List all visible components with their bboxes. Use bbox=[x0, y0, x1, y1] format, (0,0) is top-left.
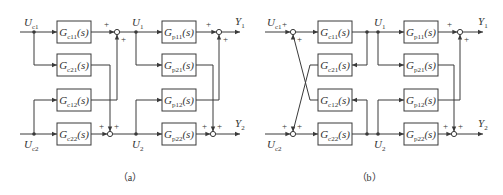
signal-line bbox=[352, 100, 367, 134]
arrowhead bbox=[446, 132, 451, 136]
summing-junction bbox=[210, 131, 215, 136]
arrowhead bbox=[452, 30, 457, 34]
arrowhead bbox=[157, 63, 162, 67]
arrowhead bbox=[313, 30, 318, 34]
arrowhead bbox=[399, 98, 404, 102]
plus-sign: + bbox=[217, 121, 222, 131]
output-label-y2: Y2 bbox=[235, 117, 245, 132]
summing-junction bbox=[290, 29, 295, 34]
plus-sign: + bbox=[443, 121, 448, 131]
plus-sign: + bbox=[297, 34, 302, 44]
arrowhead bbox=[313, 132, 318, 136]
intermediate-label-u1: U1 bbox=[374, 16, 386, 31]
block-gc12: Gc12(s) bbox=[57, 89, 91, 111]
arrowhead bbox=[291, 126, 295, 131]
summing-junction bbox=[107, 131, 112, 136]
signal-line bbox=[352, 32, 367, 65]
block-gp21: Gp21(s) bbox=[162, 54, 196, 76]
block-gc21: Gc21(s) bbox=[57, 54, 91, 76]
arrowhead bbox=[211, 30, 216, 34]
input-label-uc2: Uc2 bbox=[24, 138, 39, 153]
arrowhead bbox=[211, 126, 215, 131]
plus-sign: + bbox=[104, 19, 109, 29]
signal-line bbox=[136, 100, 162, 134]
arrowhead bbox=[478, 30, 483, 34]
arrowhead bbox=[399, 132, 404, 136]
block-gc22: Gc22(s) bbox=[57, 123, 91, 145]
block-gp22: Gp22(s) bbox=[162, 123, 196, 145]
block-gc22: Gc22(s) bbox=[318, 123, 352, 145]
summing-junction bbox=[216, 29, 221, 34]
plus-sign: + bbox=[282, 121, 287, 131]
arrowhead bbox=[102, 132, 107, 136]
intermediate-label-u2: U2 bbox=[132, 138, 144, 153]
arrowhead bbox=[458, 35, 462, 40]
arrowhead bbox=[235, 132, 240, 136]
block-gp11: Gp11(s) bbox=[162, 21, 196, 43]
arrowhead bbox=[399, 30, 404, 34]
intermediate-label-u1: U1 bbox=[132, 16, 144, 31]
arrowhead bbox=[52, 30, 57, 34]
plus-sign: + bbox=[464, 34, 469, 44]
arrowhead bbox=[399, 63, 404, 67]
signal-line bbox=[196, 35, 219, 100]
output-label-y1: Y1 bbox=[235, 15, 245, 30]
caption-a: （a） bbox=[118, 172, 142, 183]
arrowhead bbox=[217, 35, 221, 40]
arrowhead bbox=[157, 132, 162, 136]
arrowhead bbox=[52, 132, 57, 136]
arrowhead bbox=[285, 132, 290, 136]
plus-sign: + bbox=[99, 121, 104, 131]
arrowhead bbox=[157, 30, 162, 34]
summing-junction bbox=[457, 29, 462, 34]
intermediate-label-u2: U2 bbox=[374, 138, 386, 153]
plus-sign: + bbox=[297, 121, 302, 131]
input-label-uc2: Uc2 bbox=[267, 138, 282, 153]
plus-sign: + bbox=[202, 121, 207, 131]
arrowhead bbox=[352, 63, 357, 67]
signal-line bbox=[34, 100, 57, 134]
signal-line bbox=[378, 100, 404, 134]
signal-line bbox=[378, 32, 404, 65]
arrowhead bbox=[205, 132, 210, 136]
arrowhead bbox=[115, 35, 119, 40]
plus-sign: + bbox=[223, 34, 228, 44]
plus-sign: + bbox=[121, 34, 126, 44]
block-gp12: Gp12(s) bbox=[162, 89, 196, 111]
output-label-y1: Y1 bbox=[478, 15, 488, 30]
signal-line bbox=[91, 35, 117, 100]
block-gc11: Gc11(s) bbox=[318, 21, 352, 43]
block-gp12: Gp12(s) bbox=[404, 89, 438, 111]
block-gc12: Gc12(s) bbox=[318, 89, 352, 111]
arrowhead bbox=[352, 98, 357, 102]
arrowhead bbox=[291, 35, 295, 40]
signal-line bbox=[34, 32, 57, 65]
block-gp21: Gp21(s) bbox=[404, 54, 438, 76]
arrowhead bbox=[478, 132, 483, 136]
arrowhead bbox=[285, 30, 290, 34]
arrowhead bbox=[52, 63, 57, 67]
panel-a: Uc1Uc2Gc11(s)Gc21(s)Gc12(s)Gc22(s)++++U1… bbox=[20, 15, 245, 183]
signal-line bbox=[136, 32, 162, 65]
arrowhead bbox=[235, 30, 240, 34]
arrowhead bbox=[157, 98, 162, 102]
signal-line bbox=[438, 35, 460, 100]
plus-sign: + bbox=[447, 19, 452, 29]
panel-b: Uc1Uc2++++Gc11(s)Gc21(s)Gc12(s)Gc22(s)U1… bbox=[265, 15, 488, 183]
block-gp22: Gp22(s) bbox=[404, 123, 438, 145]
summing-junction bbox=[451, 131, 456, 136]
block-gp11: Gp11(s) bbox=[404, 21, 438, 43]
plus-sign: + bbox=[206, 19, 211, 29]
plus-sign: + bbox=[458, 121, 463, 131]
block-gc11: Gc11(s) bbox=[57, 21, 91, 43]
input-label-uc1: Uc1 bbox=[24, 16, 39, 31]
input-label-uc1: Uc1 bbox=[267, 16, 282, 31]
summing-junction bbox=[290, 131, 295, 136]
plus-sign: + bbox=[282, 19, 287, 29]
output-label-y2: Y2 bbox=[478, 117, 488, 132]
arrowhead bbox=[109, 30, 114, 34]
block-diagram: Uc1Uc2Gc11(s)Gc21(s)Gc12(s)Gc22(s)++++U1… bbox=[0, 0, 503, 195]
block-gc21: Gc21(s) bbox=[318, 54, 352, 76]
plus-sign: + bbox=[114, 121, 119, 131]
arrowhead bbox=[52, 98, 57, 102]
